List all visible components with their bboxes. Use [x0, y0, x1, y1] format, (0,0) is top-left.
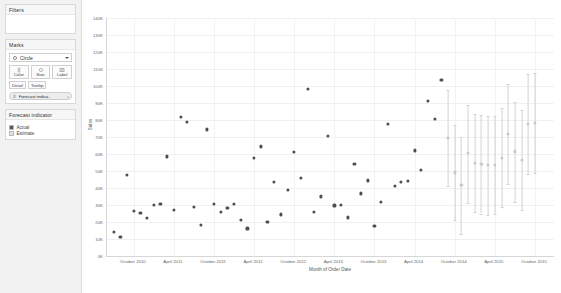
actual-point[interactable] [226, 206, 229, 209]
legend-body: Actual Estimate [6, 120, 75, 139]
forecast-bar-cap [487, 215, 490, 216]
actual-point[interactable] [440, 78, 443, 81]
actual-point[interactable] [413, 149, 416, 152]
size-button-label: Size [36, 73, 44, 77]
estimate-point[interactable] [446, 136, 449, 139]
chevron-down-icon [65, 57, 69, 59]
pill-menu-icon[interactable]: ⌕ [67, 94, 69, 99]
estimate-point[interactable] [480, 163, 483, 166]
actual-point[interactable] [192, 205, 195, 208]
actual-point[interactable] [279, 213, 282, 216]
y-tick-label: 0K [98, 254, 103, 259]
x-gridline [334, 18, 335, 256]
forecast-bar-cap [520, 210, 523, 211]
estimate-point[interactable] [533, 121, 536, 124]
estimate-point[interactable] [520, 159, 523, 162]
actual-point[interactable] [146, 217, 149, 220]
actual-point[interactable] [406, 180, 409, 183]
estimate-point[interactable] [507, 132, 510, 135]
actual-point[interactable] [393, 184, 396, 187]
actual-point[interactable] [273, 180, 276, 183]
estimate-point[interactable] [453, 171, 456, 174]
actual-point[interactable] [125, 173, 128, 176]
legend-item-actual[interactable]: Actual [9, 125, 72, 130]
estimate-point[interactable] [500, 156, 503, 159]
tooltip-button[interactable]: Tooltip [28, 81, 46, 89]
legend-item-estimate[interactable]: Estimate [9, 131, 72, 136]
actual-point[interactable] [239, 218, 242, 221]
actual-point[interactable] [400, 180, 403, 183]
marks-card-title: Marks [6, 40, 75, 50]
forecast-bar-cap [447, 90, 450, 91]
detail-button[interactable]: Detail [9, 81, 26, 89]
chart-canvas: Sales 0K10K20K30K40K50K60K70K80K90K100K1… [82, 0, 561, 293]
legend-title: Forecast indicator [6, 110, 75, 120]
estimate-point[interactable] [460, 184, 463, 187]
actual-point[interactable] [219, 211, 222, 214]
actual-point[interactable] [166, 155, 169, 158]
actual-point[interactable] [266, 220, 269, 223]
forecast-bar-cap [513, 102, 516, 103]
actual-point[interactable] [172, 208, 175, 211]
actual-point[interactable] [119, 235, 122, 238]
actual-point[interactable] [359, 192, 362, 195]
x-tick-label: April 2015 [484, 259, 503, 264]
actual-point[interactable] [186, 120, 189, 123]
actual-point[interactable] [206, 128, 209, 131]
actual-point[interactable] [313, 210, 316, 213]
estimate-point[interactable] [473, 161, 476, 164]
detail-button-label: Detail [12, 83, 23, 88]
actual-point[interactable] [386, 122, 389, 125]
actual-point[interactable] [253, 157, 256, 160]
filters-card-body[interactable] [6, 15, 75, 41]
estimate-point[interactable] [493, 163, 496, 166]
estimate-point[interactable] [527, 123, 530, 126]
forecast-indicator-pill[interactable]: Forecast indica.. ⌕ [9, 92, 72, 100]
forecast-bar-cap [533, 73, 536, 74]
scatter-plot[interactable] [106, 18, 554, 256]
x-tick-label: October 2015 [521, 259, 547, 264]
forecast-bar-cap [520, 110, 523, 111]
forecast-indicator-pill-label: Forecast indica.. [19, 94, 67, 99]
color-shelf-icon [12, 94, 17, 99]
actual-point[interactable] [346, 216, 349, 219]
forecast-indicator-legend-card: Forecast indicator Actual Estimate [5, 109, 76, 140]
actual-point[interactable] [333, 204, 336, 207]
actual-point[interactable] [306, 87, 309, 90]
forecast-bar-cap [500, 108, 503, 109]
actual-point[interactable] [132, 209, 135, 212]
plot-wrapper: Sales 0K10K20K30K40K50K60K70K80K90K100K1… [82, 0, 561, 293]
actual-point[interactable] [152, 204, 155, 207]
actual-point[interactable] [112, 230, 115, 233]
actual-point[interactable] [286, 188, 289, 191]
marks-card-body: Circle Color Size [6, 50, 75, 103]
mark-type-dropdown[interactable]: Circle [9, 53, 72, 62]
actual-point[interactable] [299, 177, 302, 180]
x-tick-label: October 2012 [280, 259, 306, 264]
label-button[interactable]: Label [52, 65, 72, 79]
actual-point[interactable] [199, 223, 202, 226]
estimate-point[interactable] [513, 150, 516, 153]
legend-swatch-actual [9, 125, 14, 130]
estimate-point[interactable] [487, 164, 490, 167]
forecast-bar-cap [533, 173, 536, 174]
actual-point[interactable] [259, 145, 262, 148]
x-tick-label: April 2012 [243, 259, 262, 264]
color-button[interactable]: Color [9, 65, 29, 79]
marks-sidebar: Filters Marks Circle [0, 0, 82, 293]
x-gridline [294, 18, 295, 256]
forecast-bar-cap [480, 214, 483, 215]
actual-point[interactable] [366, 179, 369, 182]
actual-point[interactable] [380, 200, 383, 203]
forecast-bar-cap [453, 125, 456, 126]
actual-point[interactable] [246, 227, 249, 230]
actual-point[interactable] [373, 225, 376, 228]
x-tick-label: April 2011 [163, 259, 182, 264]
actual-point[interactable] [319, 195, 322, 198]
x-tick-label: October 2010 [120, 259, 146, 264]
actual-point[interactable] [179, 116, 182, 119]
actual-point[interactable] [139, 212, 142, 215]
y-tick-label: 50K [95, 169, 103, 174]
actual-point[interactable] [353, 162, 356, 165]
size-button[interactable]: Size [31, 65, 51, 79]
